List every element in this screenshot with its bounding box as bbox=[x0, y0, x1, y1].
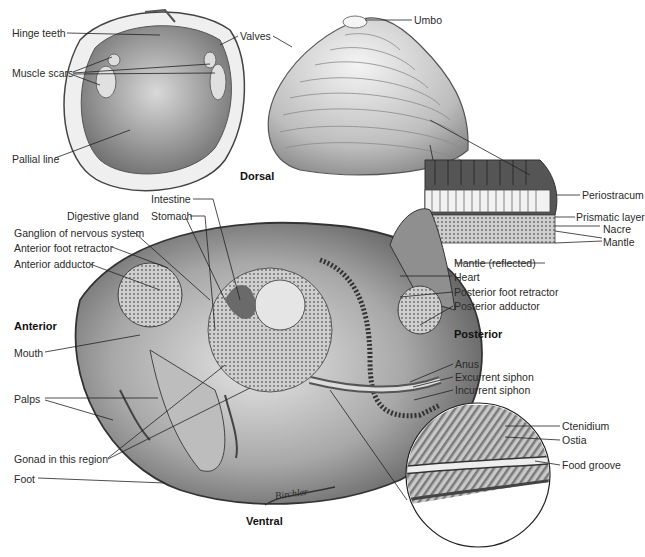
label-anterior-adductor: Anterior adductor bbox=[14, 258, 95, 270]
label-palps: Palps bbox=[14, 393, 40, 405]
label-umbo: Umbo bbox=[414, 14, 442, 26]
label-stomach: Stomach bbox=[151, 210, 192, 222]
label-posterior-adductor: Posterior adductor bbox=[454, 300, 540, 312]
orientation-ventral: Ventral bbox=[246, 515, 283, 527]
label-ganglion: Ganglion of nervous system bbox=[14, 227, 144, 239]
shell-exterior-illustration bbox=[268, 16, 468, 175]
label-foot: Foot bbox=[14, 473, 35, 485]
label-anterior-foot-retractor: Anterior foot retractor bbox=[14, 242, 113, 254]
label-intestine: Intestine bbox=[151, 193, 191, 205]
label-valves: Valves bbox=[240, 30, 271, 42]
label-periostracum: Periostracum bbox=[582, 189, 644, 201]
label-mantle-reflected: Mantle (reflected) bbox=[454, 257, 536, 269]
label-posterior-foot-retractor: Posterior foot retractor bbox=[454, 286, 558, 298]
label-ostia: Ostia bbox=[562, 434, 587, 446]
label-ctenidium: Ctenidium bbox=[562, 420, 609, 432]
label-digestive-gland: Digestive gland bbox=[67, 210, 139, 222]
label-heart: Heart bbox=[454, 271, 480, 283]
orientation-dorsal: Dorsal bbox=[240, 170, 274, 182]
orientation-anterior: Anterior bbox=[14, 320, 57, 332]
label-mantle: Mantle bbox=[603, 236, 635, 248]
label-anus: Anus bbox=[455, 358, 479, 370]
label-excurrent-siphon: Excurrent siphon bbox=[455, 371, 534, 383]
label-incurrent-siphon: Incurrent siphon bbox=[455, 384, 530, 396]
label-mouth: Mouth bbox=[14, 347, 43, 359]
label-gonad: Gonad in this region bbox=[14, 453, 108, 465]
label-pallial-line: Pallial line bbox=[12, 153, 59, 165]
label-food-groove: Food groove bbox=[562, 459, 621, 471]
shell-interior-illustration bbox=[64, 10, 244, 191]
label-prismatic-layer: Prismatic layer bbox=[576, 211, 645, 223]
label-nacre: Nacre bbox=[603, 223, 631, 235]
orientation-posterior: Posterior bbox=[454, 328, 502, 340]
label-muscle-scars: Muscle scars bbox=[12, 67, 73, 79]
label-hinge-teeth: Hinge teeth bbox=[12, 27, 66, 39]
shell-section-illustration bbox=[425, 160, 557, 243]
